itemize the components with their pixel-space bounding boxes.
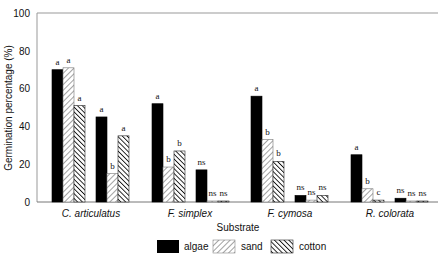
bar-algae: [152, 104, 163, 202]
bar-sand: [406, 201, 417, 202]
bar-cotton: [317, 195, 328, 202]
bar-algae: [96, 117, 107, 202]
y-axis-ticks: 0 20 40 60 80 100: [13, 8, 30, 208]
significance-label: a: [156, 91, 160, 101]
bar-sand: [63, 68, 74, 202]
significance-label: ns: [197, 157, 206, 167]
bar-cotton: [74, 106, 85, 202]
legend: algae sand cotton: [157, 240, 326, 253]
significance-label: ns: [318, 182, 327, 192]
significance-label: ns: [307, 187, 316, 197]
y-tick: 80: [19, 46, 31, 57]
significance-label: ns: [219, 188, 228, 198]
significance-label: a: [122, 123, 126, 133]
significance-label: a: [100, 104, 104, 114]
legend-swatch-sand: [213, 240, 235, 253]
significance-label: a: [78, 93, 82, 103]
significance-label: ns: [396, 185, 405, 195]
significance-label: ns: [296, 182, 305, 192]
bar-algae: [52, 70, 63, 202]
bar-cotton: [373, 200, 384, 202]
legend-swatch-cotton: [271, 240, 293, 253]
bar-cotton: [273, 161, 284, 202]
bars: [52, 68, 428, 202]
significance-label: ns: [418, 188, 427, 198]
legend-label: sand: [241, 241, 263, 252]
significance-label: b: [276, 148, 281, 158]
bar-algae: [395, 198, 406, 202]
significance-label: b: [365, 176, 370, 186]
y-tick: 60: [19, 83, 31, 94]
legend-swatch-algae: [157, 240, 179, 253]
significance-label: a: [255, 83, 259, 93]
significance-label: ns: [407, 188, 416, 198]
significance-label: a: [355, 142, 359, 152]
bar-chart: 0 20 40 60 80 100 Germination percentage…: [0, 0, 446, 266]
y-axis-label: Germination percentage (%): [3, 45, 14, 171]
significance-label: b: [177, 138, 182, 148]
y-tick: 20: [19, 159, 31, 170]
legend-label: cotton: [299, 241, 326, 252]
bar-sand: [306, 200, 317, 202]
category-label: F. simplex: [168, 208, 213, 219]
category-label: F. cymosa: [268, 208, 313, 219]
bar-cotton: [417, 201, 428, 202]
bar-sand: [163, 167, 174, 202]
bar-sand: [107, 174, 118, 202]
category-label: C. articulatus: [62, 208, 120, 219]
legend-label: algae: [184, 241, 209, 252]
bar-sand: [207, 201, 218, 202]
significance-label: c: [377, 187, 381, 197]
significance-label: a: [67, 55, 71, 65]
bar-sand: [362, 189, 373, 202]
bar-sand: [262, 140, 273, 202]
bar-cotton: [218, 201, 229, 202]
category-label: R. colorata: [366, 208, 415, 219]
bar-algae: [295, 195, 306, 202]
significance-label: a: [56, 57, 60, 67]
significance-label: b: [265, 127, 270, 137]
bar-algae: [251, 96, 262, 202]
y-tick: 0: [24, 197, 30, 208]
bar-cotton: [174, 151, 185, 202]
y-tick: 40: [19, 121, 31, 132]
significance-label: ns: [208, 188, 217, 198]
y-tick: 100: [13, 8, 30, 19]
significance-label: b: [166, 154, 171, 164]
x-axis-categories: C. articulatus F. simplex F. cymosa R. c…: [62, 208, 415, 219]
x-axis-label: Substrate: [217, 222, 260, 233]
bar-cotton: [118, 136, 129, 202]
significance-label: b: [110, 161, 115, 171]
bar-algae: [351, 155, 362, 202]
bar-algae: [196, 170, 207, 202]
